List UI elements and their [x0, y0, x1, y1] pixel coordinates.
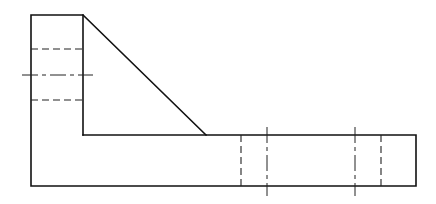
visible-outline-group: [31, 15, 416, 186]
part-outline: [31, 15, 416, 186]
technical-drawing: [0, 0, 436, 204]
